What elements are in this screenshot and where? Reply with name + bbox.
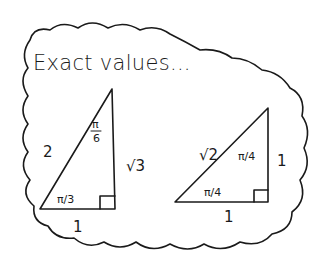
bottom-left-angle-label: π/3 [57,193,74,206]
top-angle-denominator: 6 [93,132,100,145]
bottom-left-angle-label: π/4 [204,186,221,199]
top-angle-numerator: π [92,118,99,131]
diagram-title: Exact values... [33,51,191,75]
base-label: 1 [224,208,234,226]
vertical-side-label: √3 [126,157,145,175]
exact-values-diagram: Exact values... 2 1 √3 π 6 π/3 √2 1 1 π/… [0,0,313,257]
right-angle-marker [100,196,115,209]
top-angle-label: π/4 [238,150,255,163]
hypotenuse-label: 2 [43,143,53,161]
vertical-side-label: 1 [277,152,287,170]
base-label: 1 [73,218,83,236]
right-angle-marker [254,190,268,202]
hypotenuse-label: √2 [199,146,218,164]
triangle-45-45-90: √2 1 1 π/4 π/4 [175,108,287,226]
triangle-30-60-90: 2 1 √3 π 6 π/3 [40,89,145,236]
